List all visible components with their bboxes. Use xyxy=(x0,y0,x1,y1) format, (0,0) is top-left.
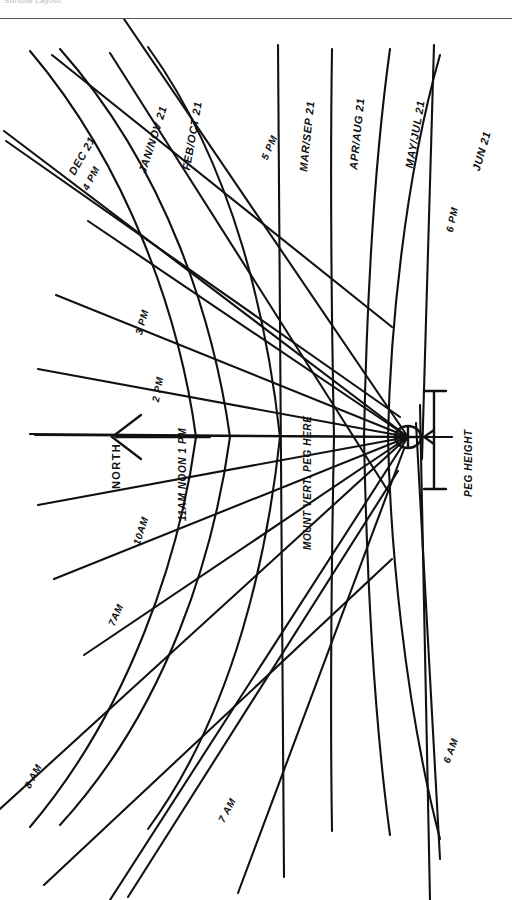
gnomon-mount-point xyxy=(394,425,422,449)
hour-line-2pm xyxy=(56,295,408,437)
hour-line-1pm xyxy=(38,369,408,437)
label-11am-noon-1pm: 11AM NOON 1 PM xyxy=(177,428,188,521)
construction-line-c xyxy=(6,141,400,417)
mount-point-arrow xyxy=(424,430,452,444)
construction-line-a xyxy=(52,55,392,327)
label-north: NORTH xyxy=(110,443,122,489)
hour-line-10am xyxy=(54,437,408,579)
header-title: Sundial Layout xyxy=(4,0,61,5)
label-peg-height: PEG HEIGHT xyxy=(463,429,474,497)
north-arrow xyxy=(112,415,210,459)
hour-line-9am xyxy=(84,437,408,655)
label-mount-vert-peg-here: MOUNT VERT. PEG HERE xyxy=(302,416,313,550)
diagram-canvas: DEC 21 4 PM JAN/NOV 21 FEB/OCT 21 5 PM M… xyxy=(0,19,512,900)
hour-line-11am xyxy=(38,437,408,505)
declination-curve-apr-aug xyxy=(331,49,334,831)
sundial-diagram-page: Sundial Layout xyxy=(0,0,512,900)
page-header: Sundial Layout xyxy=(0,0,512,19)
